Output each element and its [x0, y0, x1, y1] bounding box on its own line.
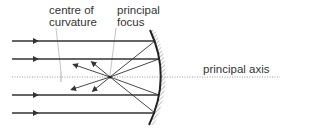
reflected-rays — [73, 41, 159, 113]
principal-focus-label: principal focus — [117, 4, 160, 28]
focus-label-line1: principal — [117, 4, 160, 16]
centre-leader-line — [56, 28, 61, 72]
principal-axis-label: principal axis — [203, 63, 269, 75]
centre-of-curvature-label: centre of curvature — [49, 4, 97, 28]
focus-label-line2: focus — [117, 16, 160, 28]
incident-arrowheads — [33, 38, 39, 116]
centre-label-line2: curvature — [49, 16, 97, 28]
focus-leader-line — [110, 28, 116, 75]
centre-label-line1: centre of — [49, 4, 97, 16]
principal-focus-point — [109, 76, 112, 79]
